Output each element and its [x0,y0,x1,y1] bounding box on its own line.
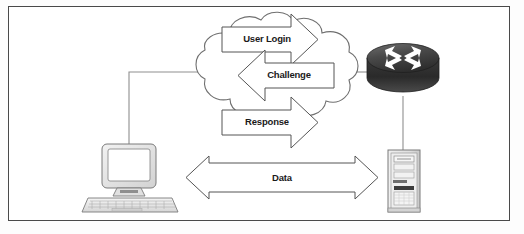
flow-label-data: Data [252,172,312,183]
flow-label-response: Response [233,116,301,127]
flow-label-challenge: Challenge [255,69,323,80]
diagram-canvas: User Login Challenge Response Data [0,0,524,234]
flow-label-user-login: User Login [233,33,301,44]
